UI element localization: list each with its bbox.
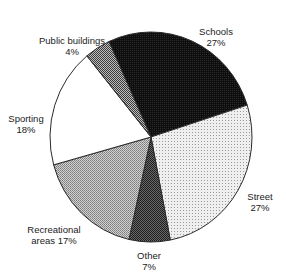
- pie-slices: [50, 32, 252, 242]
- label-recreational-value: areas 17%: [22, 235, 86, 246]
- label-sporting-name: Sporting: [6, 113, 46, 124]
- label-street: Street 27%: [240, 191, 280, 213]
- label-sporting: Sporting 18%: [6, 113, 46, 135]
- label-street-value: 27%: [240, 202, 280, 213]
- label-schools-value: 27%: [190, 37, 242, 48]
- label-street-name: Street: [240, 191, 280, 202]
- label-recreational: Recreational areas 17%: [22, 224, 86, 246]
- label-schools: Schools 27%: [190, 26, 242, 48]
- label-recreational-name: Recreational: [22, 224, 86, 235]
- label-public-buildings-name: Public buildings: [36, 35, 108, 46]
- label-other: Other 7%: [131, 250, 167, 272]
- label-other-value: 7%: [131, 261, 167, 272]
- label-public-buildings: Public buildings 4%: [36, 35, 108, 57]
- label-public-buildings-value: 4%: [36, 46, 108, 57]
- label-schools-name: Schools: [190, 26, 242, 37]
- label-sporting-value: 18%: [6, 124, 46, 135]
- label-other-name: Other: [131, 250, 167, 261]
